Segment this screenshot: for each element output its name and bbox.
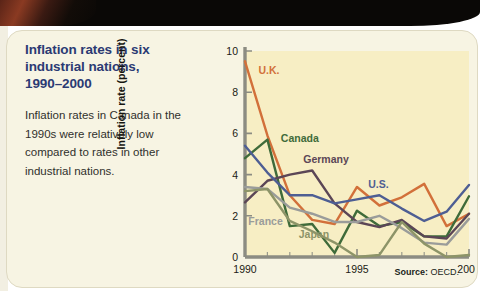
series-label-japan: Japan: [299, 228, 329, 240]
caption-text: Inflation rates in Canada in the 1990s w…: [25, 106, 203, 180]
page-title: Inflation rates in six industrial nation…: [25, 41, 203, 92]
y-axis-title: Inflation rate (percent): [115, 30, 129, 169]
y-tick-label: 0: [232, 251, 238, 263]
y-tick-label: 4: [232, 169, 238, 181]
line-chart: 0246810199019952000U.K.CanadaGermanyU.S.…: [203, 35, 475, 287]
y-tick-label: 6: [232, 127, 238, 139]
y-tick-label: 2: [232, 210, 238, 222]
scanned-page: Inflation rates in six industrial nation…: [0, 0, 480, 291]
x-tick-label: 1995: [345, 263, 369, 275]
infographic-card: Inflation rates in six industrial nation…: [6, 30, 478, 288]
series-label-germany: Germany: [303, 153, 349, 165]
source-value: OECD.: [430, 267, 459, 277]
x-tick-label: 1990: [233, 263, 257, 275]
text-column: Inflation rates in six industrial nation…: [25, 41, 203, 180]
chart-plot-area: Inflation rate (percent) 024681019901995…: [203, 35, 475, 287]
page-edge-shadow: [0, 0, 480, 26]
series-label-us: U.S.: [368, 178, 389, 190]
series-label-france: France: [248, 215, 283, 227]
source-label: Source:: [394, 267, 428, 277]
y-tick-label: 10: [226, 45, 238, 57]
source-note: Source: OECD.: [394, 267, 459, 277]
x-tick-label: 2000: [457, 263, 475, 275]
series-label-canada: Canada: [281, 132, 319, 144]
y-tick-label: 8: [232, 86, 238, 98]
series-label-uk: U.K.: [258, 64, 279, 76]
